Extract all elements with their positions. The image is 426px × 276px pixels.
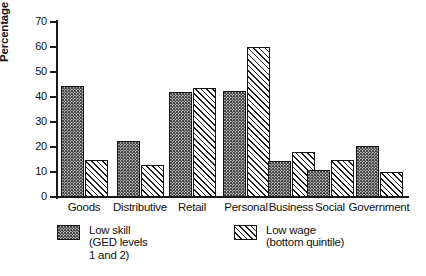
bar-group [307, 22, 354, 197]
y-tick [50, 46, 57, 48]
bar-low-skill [223, 91, 246, 197]
legend: Low skill(GED levels1 and 2) Low wage(bo… [57, 224, 417, 270]
y-tick-label: 30 [35, 116, 47, 127]
y-tick [50, 71, 57, 73]
plot-area [57, 22, 409, 197]
y-tick-label: 70 [35, 16, 47, 27]
bar-group [169, 22, 216, 197]
y-tick [50, 96, 57, 98]
bar-low-wage [380, 172, 403, 197]
y-tick [50, 121, 57, 123]
bar-low-skill [61, 86, 84, 197]
bar-low-skill [356, 146, 379, 197]
y-tick-label: 20 [35, 141, 47, 152]
bar-low-skill [268, 161, 291, 197]
bar-low-wage [331, 160, 354, 198]
legend-swatch-low-wage [234, 225, 257, 240]
bar-low-wage [247, 47, 270, 197]
y-tick-label: 10 [35, 166, 47, 177]
y-tick [50, 171, 57, 173]
legend-label-low-skill: Low skill(GED levels1 and 2) [89, 224, 148, 261]
bar-group [117, 22, 164, 197]
legend-swatch-low-skill [57, 225, 80, 240]
bar-low-skill [307, 170, 330, 198]
bar-low-wage [141, 165, 164, 198]
bar-low-wage [85, 160, 108, 198]
bar-group [223, 22, 270, 197]
y-tick-label: 50 [35, 66, 47, 77]
legend-label-low-wage: Low wage(bottom quintile) [266, 224, 344, 249]
x-category-label: Government [329, 201, 426, 214]
y-tick-label: 60 [35, 41, 47, 52]
bar-low-skill [169, 92, 192, 197]
bar-low-skill [117, 141, 140, 197]
bar-low-wage [193, 88, 216, 197]
legend-item-low-skill: Low skill(GED levels1 and 2) [57, 224, 148, 261]
y-tick-label: 40 [35, 91, 47, 102]
bar-group [356, 22, 403, 197]
bar-group [61, 22, 108, 197]
chart-figure: Percentage 010203040506070 GoodsDistribu… [0, 0, 426, 276]
y-tick [50, 146, 57, 148]
y-tick [50, 196, 57, 198]
y-axis-label: Percentage [0, 0, 10, 62]
y-tick [50, 21, 57, 23]
legend-item-low-wage: Low wage(bottom quintile) [234, 224, 344, 249]
